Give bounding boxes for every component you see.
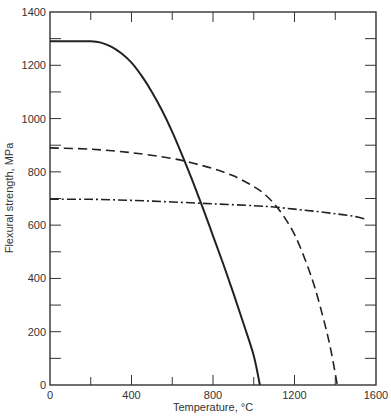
plot-frame — [50, 12, 376, 385]
y-tick-label: 1000 — [22, 113, 46, 125]
y-tick-label: 600 — [28, 219, 46, 231]
x-tick-label: 1600 — [364, 389, 388, 401]
y-tick-label: 800 — [28, 166, 46, 178]
chart: 0400800120016000200400600800100012001400… — [0, 0, 391, 417]
x-tick-label: 1200 — [282, 389, 306, 401]
y-tick-label: 1200 — [22, 59, 46, 71]
y-tick-label: 400 — [28, 272, 46, 284]
data-series — [50, 41, 366, 385]
y-tick-label: 1400 — [22, 6, 46, 18]
axis-ticks — [50, 12, 376, 385]
y-axis-title: Flexural strength, MPa — [3, 142, 15, 254]
x-tick-label: 0 — [47, 389, 53, 401]
series-solid-line — [50, 41, 260, 385]
series-dash-dot-line — [50, 199, 366, 219]
y-tick-label: 0 — [40, 379, 46, 391]
plot-axes — [50, 12, 376, 385]
y-tick-label: 200 — [28, 326, 46, 338]
x-tick-label: 400 — [122, 389, 140, 401]
x-tick-label: 800 — [204, 389, 222, 401]
x-axis-title: Temperature, °C — [173, 401, 253, 413]
